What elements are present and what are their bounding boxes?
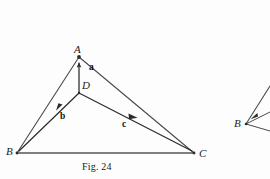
vertex-label-a: A	[74, 44, 81, 55]
vector-group	[19, 63, 192, 151]
partial-figure-right	[245, 86, 270, 131]
vector-label-c: c	[122, 120, 126, 130]
vector-c-arrow	[79, 93, 192, 151]
partial-edge-lower	[246, 124, 270, 131]
vertex-dot-C	[193, 152, 196, 155]
vertex-label-d: D	[82, 80, 90, 91]
figure-caption: Fig. 24	[82, 161, 112, 172]
vector-label-b: b	[60, 112, 65, 122]
edge-A-C	[79, 57, 194, 153]
vector-b-arrow	[19, 93, 79, 151]
vector-c-head	[129, 114, 138, 120]
vertex-dot-B	[16, 152, 19, 155]
vertex-dot-A	[77, 55, 81, 59]
edge-B-A	[17, 57, 79, 153]
vertex-dot-D	[78, 92, 80, 94]
vertex-label-b: B	[6, 146, 13, 157]
partial-figure-vertex-label-b: B	[234, 118, 241, 129]
geometry-diagram	[0, 0, 270, 179]
vertex-label-c: C	[199, 148, 206, 159]
vector-label-a: a	[89, 63, 94, 73]
figure-page: A B C D a b c B Fig. 24	[0, 0, 270, 179]
partial-vertex-dot-B	[245, 123, 248, 126]
